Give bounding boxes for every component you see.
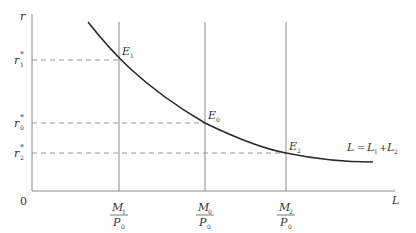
x-tick-m2-p0: M 2 P 0 (277, 201, 295, 230)
y-axis-label: r (20, 10, 26, 23)
x-tick-m1-p0: M 1 P 0 (110, 201, 128, 230)
svg-text:1: 1 (374, 148, 378, 155)
y-tick-r0: r 0 * (14, 113, 24, 131)
svg-text:2: 2 (297, 147, 301, 154)
svg-text:P: P (112, 216, 121, 229)
svg-text:L: L (346, 141, 354, 154)
svg-text:P: P (198, 216, 207, 229)
svg-text:E: E (121, 45, 130, 58)
svg-text:0: 0 (288, 223, 292, 230)
svg-text:E: E (207, 109, 216, 122)
svg-text:*: * (20, 50, 24, 59)
x-tick-m0-p0: M 0 P 0 (196, 201, 214, 230)
svg-text:0: 0 (121, 223, 125, 230)
point-e1: E 1 (121, 45, 134, 59)
svg-text:2: 2 (394, 148, 398, 155)
svg-text:0: 0 (208, 208, 212, 215)
svg-text:*: * (20, 113, 24, 122)
money-demand-diagram: r L 0 r 1 * r 0 * r 2 * M 1 P 0 M 0 P 0 … (0, 0, 416, 233)
svg-text:=: = (357, 142, 365, 153)
svg-text:0: 0 (20, 124, 24, 131)
svg-text:1: 1 (130, 52, 134, 59)
origin-label: 0 (20, 195, 27, 208)
svg-text:1: 1 (20, 61, 24, 68)
y-tick-r1: r 1 * (14, 50, 24, 68)
y-tick-r2: r 2 * (14, 143, 24, 161)
svg-text:*: * (20, 143, 24, 152)
svg-text:1: 1 (122, 208, 126, 215)
svg-text:P: P (279, 216, 288, 229)
x-axis-label: L (391, 194, 399, 207)
money-demand-curve (88, 22, 373, 162)
svg-text:2: 2 (289, 208, 293, 215)
svg-text:2: 2 (20, 154, 24, 161)
curve-label: L = L 1 + L 2 (346, 141, 398, 155)
svg-text:0: 0 (216, 116, 220, 123)
svg-text:0: 0 (207, 223, 211, 230)
point-e0: E 0 (207, 109, 220, 123)
point-e2: E 2 (288, 140, 301, 154)
svg-text:E: E (288, 140, 297, 153)
